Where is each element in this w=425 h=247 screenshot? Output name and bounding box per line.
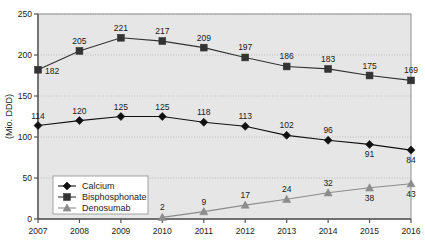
legend-label: Denosumab xyxy=(82,203,131,213)
marker-square xyxy=(64,194,71,201)
x-tick-label: 2015 xyxy=(360,226,379,236)
x-tick-label: 2008 xyxy=(70,226,89,236)
data-label: 32 xyxy=(323,178,333,188)
x-tick-label: 2012 xyxy=(236,226,255,236)
x-tick-label: 2010 xyxy=(153,226,172,236)
data-label: 125 xyxy=(114,102,128,112)
y-tick-label: 200 xyxy=(18,50,32,60)
data-label: 182 xyxy=(45,66,59,76)
data-label: 2 xyxy=(160,202,165,212)
data-label: 183 xyxy=(321,54,335,64)
marker-square xyxy=(117,34,124,41)
x-tick-label: 2009 xyxy=(111,226,130,236)
marker-square xyxy=(366,72,373,79)
data-label: 91 xyxy=(365,149,375,159)
data-label: 24 xyxy=(282,184,292,194)
data-label: 221 xyxy=(114,23,128,33)
marker-square xyxy=(159,38,166,45)
x-axis: 2007200820092010201120122013201420152016 xyxy=(29,219,421,236)
legend: CalciumBisphosphonateDenosumab xyxy=(53,176,148,214)
legend-label: Bisphosphonate xyxy=(82,192,147,202)
data-label: 217 xyxy=(155,26,169,36)
marker-square xyxy=(76,48,83,55)
legend-item-calcium[interactable]: Calcium xyxy=(58,181,115,191)
data-label: 175 xyxy=(362,61,376,71)
data-label: 118 xyxy=(197,107,211,117)
y-tick-label: 100 xyxy=(18,132,32,142)
marker-square xyxy=(35,66,42,73)
marker-square xyxy=(242,54,249,61)
y-axis-title: (Mio. DDD) xyxy=(4,94,14,139)
data-label: 38 xyxy=(365,193,375,203)
data-label: 43 xyxy=(406,189,416,199)
marker-square xyxy=(200,44,207,51)
data-label: 169 xyxy=(404,65,418,75)
data-label: 120 xyxy=(72,106,86,116)
y-tick-label: 0 xyxy=(27,214,32,224)
y-tick-label: 50 xyxy=(23,173,33,183)
marker-square xyxy=(283,63,290,70)
data-label: 125 xyxy=(155,102,169,112)
data-label: 197 xyxy=(238,42,252,52)
x-tick-label: 2007 xyxy=(29,226,48,236)
data-label: 84 xyxy=(406,155,416,165)
data-label: 96 xyxy=(323,125,333,135)
data-label: 209 xyxy=(197,33,211,43)
data-label: 205 xyxy=(72,36,86,46)
x-tick-label: 2011 xyxy=(195,226,214,236)
data-label: 114 xyxy=(31,111,45,121)
x-tick-label: 2014 xyxy=(319,226,338,236)
data-label: 9 xyxy=(201,197,206,207)
line-chart: 050100150200250(Mio. DDD)200720082009201… xyxy=(0,0,425,247)
marker-square xyxy=(408,77,415,84)
data-label: 102 xyxy=(280,120,294,130)
legend-label: Calcium xyxy=(82,181,115,191)
marker-square xyxy=(325,66,332,73)
data-label: 186 xyxy=(280,51,294,61)
data-label: 113 xyxy=(238,111,252,121)
y-tick-label: 150 xyxy=(18,91,32,101)
x-tick-label: 2013 xyxy=(277,226,296,236)
chart-container: 050100150200250(Mio. DDD)200720082009201… xyxy=(0,0,425,247)
y-tick-label: 250 xyxy=(18,9,32,19)
data-label: 17 xyxy=(240,190,250,200)
x-tick-label: 2016 xyxy=(402,226,421,236)
